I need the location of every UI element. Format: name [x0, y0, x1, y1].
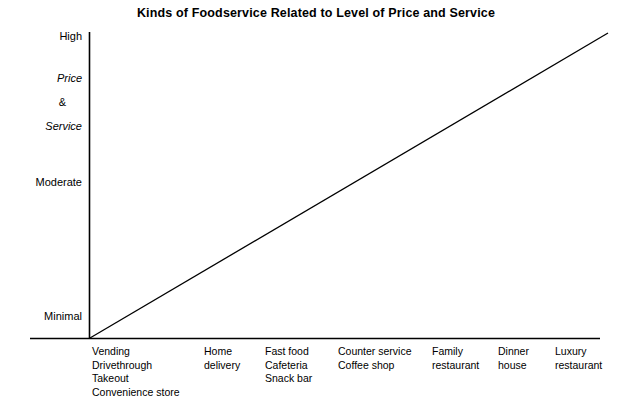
y-axis-tick-minimal: Minimal — [0, 310, 82, 322]
x-axis-category-line: Takeout — [92, 372, 180, 386]
x-axis-category-line: Drivethrough — [92, 359, 180, 373]
x-axis-category-line: Convenience store — [92, 386, 180, 400]
x-axis-category-line: Cafeteria — [265, 359, 312, 373]
x-axis-category-line: Coffee shop — [338, 359, 412, 373]
chart-container: Kinds of Foodservice Related to Level of… — [0, 0, 632, 404]
y-axis-tick-high: High — [0, 30, 82, 42]
y-axis-caption-service: Service — [0, 120, 82, 132]
x-axis-category-line: delivery — [204, 359, 240, 373]
x-axis-category-group-4: Family restaurant — [432, 345, 479, 372]
x-axis-category-group-5: Dinner house — [498, 345, 529, 372]
x-axis-category-line: Fast food — [265, 345, 312, 359]
x-axis-category-line: Luxury — [555, 345, 602, 359]
chart-plot-area — [0, 0, 632, 404]
x-axis-category-line: Counter service — [338, 345, 412, 359]
x-axis-category-line: Family — [432, 345, 479, 359]
x-axis-category-line: Vending — [92, 345, 180, 359]
x-axis-category-line: Home — [204, 345, 240, 359]
data-series-line — [90, 33, 608, 338]
x-axis-category-line: Snack bar — [265, 372, 312, 386]
x-axis-category-group-1: Home delivery — [204, 345, 240, 372]
y-axis-caption-ampersand: & — [0, 96, 66, 108]
y-axis-tick-moderate: Moderate — [0, 176, 82, 188]
x-axis-category-group-6: Luxury restaurant — [555, 345, 602, 372]
x-axis-category-line: restaurant — [432, 359, 479, 373]
x-axis-category-group-2: Fast food Cafeteria Snack bar — [265, 345, 312, 386]
x-axis-category-line: house — [498, 359, 529, 373]
x-axis-category-group-0: Vending Drivethrough Takeout Convenience… — [92, 345, 180, 399]
y-axis-caption-price: Price — [0, 72, 82, 84]
x-axis-category-line: Dinner — [498, 345, 529, 359]
x-axis-category-line: restaurant — [555, 359, 602, 373]
x-axis-category-group-3: Counter service Coffee shop — [338, 345, 412, 372]
